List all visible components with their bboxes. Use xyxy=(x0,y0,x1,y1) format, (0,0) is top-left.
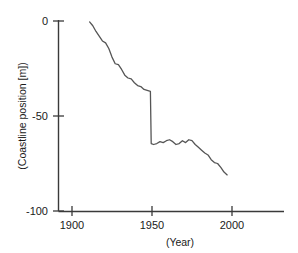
x-axis-title: (Year) xyxy=(166,236,194,248)
x-tick-label-1: 1950 xyxy=(140,219,164,231)
x-tick-label-0: 1900 xyxy=(60,219,84,231)
y-tick-label-1: -50 xyxy=(32,110,48,122)
chart-container: 0 -50 -100 1900 1950 2000 (Year) (Coastl… xyxy=(0,0,298,253)
data-series-coastline-position xyxy=(90,22,228,175)
y-tick-label-0: 0 xyxy=(42,15,48,27)
coastline-position-line-chart: 0 -50 -100 1900 1950 2000 (Year) (Coastl… xyxy=(0,0,298,253)
y-axis-title: (Coastline position [m]) xyxy=(16,62,28,169)
y-tick-label-2: -100 xyxy=(26,205,48,217)
x-tick-label-2: 2000 xyxy=(220,219,244,231)
